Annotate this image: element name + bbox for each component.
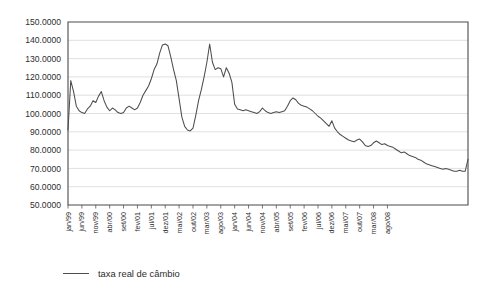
- x-axis-tick-label: jan/04: [230, 212, 239, 233]
- y-axis-tick-label: 70.0000: [30, 164, 61, 174]
- x-axis-tick-label: mai/07: [341, 212, 350, 234]
- y-axis-tick-label: 60.0000: [30, 182, 61, 192]
- x-axis-tick-label: nov/04: [258, 212, 267, 234]
- x-axis-tick-label: set/00: [119, 212, 128, 232]
- x-axis-tick-label: jul/06: [314, 212, 323, 230]
- x-axis-tick-label: mar/03: [202, 212, 211, 234]
- data-series-group: [68, 44, 468, 171]
- x-axis-tick-label: nov/99: [91, 212, 100, 234]
- y-axis-tick-label: 80.0000: [30, 145, 61, 155]
- x-axis-tick-label: abr/05: [272, 212, 281, 232]
- plot-area-wrapper: 150.0000140.0000130.0000120.0000110.0000…: [0, 0, 493, 262]
- series-line-taxa-real-de-cambio: [68, 44, 468, 171]
- x-axis-tick-label: jun/04: [244, 212, 253, 233]
- y-axis-tick-label: 140.0000: [25, 35, 61, 45]
- x-axis-tick-label: mar/08: [369, 212, 378, 234]
- y-axis-tick-label: 50.0000: [30, 200, 61, 210]
- gridlines-group: [68, 40, 468, 186]
- legend-line-marker-icon: [63, 273, 89, 274]
- x-axis-tick-label: ago/08: [383, 212, 392, 234]
- x-axis-tick-label: fev/01: [133, 212, 142, 232]
- chart-container: 150.0000140.0000130.0000120.0000110.0000…: [0, 0, 493, 300]
- line-chart-svg: 150.0000140.0000130.0000120.0000110.0000…: [0, 0, 493, 262]
- y-axis-tick-label: 130.0000: [25, 54, 61, 64]
- y-axis-tick-label: 120.0000: [25, 72, 61, 82]
- x-axis-tick-label: jun/99: [77, 212, 86, 233]
- x-axis-tick-label: dez/01: [161, 212, 170, 234]
- x-axis-tick-label: fev/06: [300, 212, 309, 232]
- y-axis-tick-label: 100.0000: [25, 109, 61, 119]
- legend-item-label: taxa real de câmbio: [98, 268, 180, 279]
- x-axis-tick-labels: jan/99jun/99nov/99abr/00set/00fev/01jul/…: [64, 212, 392, 234]
- x-axis-tick-label: mai/02: [175, 212, 184, 234]
- x-axis-tick-label: set/05: [286, 212, 295, 232]
- y-axis-tick-labels: 150.0000140.0000130.0000120.0000110.0000…: [25, 17, 61, 210]
- y-axis-tick-label: 90.0000: [30, 127, 61, 137]
- x-axis-tick-label: dez/06: [327, 212, 336, 234]
- x-axis-tick-label: out/02: [189, 212, 198, 232]
- chart-legend: taxa real de câmbio: [63, 268, 180, 279]
- x-axis-tick-label: jan/99: [64, 212, 73, 233]
- x-axis-tick-label: ago/03: [216, 212, 225, 234]
- y-axis-tick-label: 110.0000: [26, 90, 61, 100]
- y-axis-tick-label: 150.0000: [25, 17, 61, 27]
- x-axis-tick-label: jul/01: [147, 212, 156, 230]
- x-axis-tick-label: out/07: [355, 212, 364, 232]
- x-axis-tick-label: abr/00: [105, 212, 114, 232]
